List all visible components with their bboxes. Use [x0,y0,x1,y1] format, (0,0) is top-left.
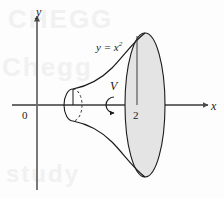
x-axis-label: x [211,100,216,112]
large-disk-shaded [125,33,165,177]
figure-canvas [0,0,224,198]
volume-label: V [110,80,117,92]
curve-equation-base: y = x [96,41,119,53]
y-axis-label: y [36,6,41,18]
origin-label: 0 [22,110,28,121]
x-tick-label-2: 2 [133,110,139,121]
curve-equation-exponent: 2 [119,40,123,48]
solid-of-revolution-figure: CHEGG Chegg study [0,0,224,198]
curve-equation-label: y = x2 [96,41,122,53]
